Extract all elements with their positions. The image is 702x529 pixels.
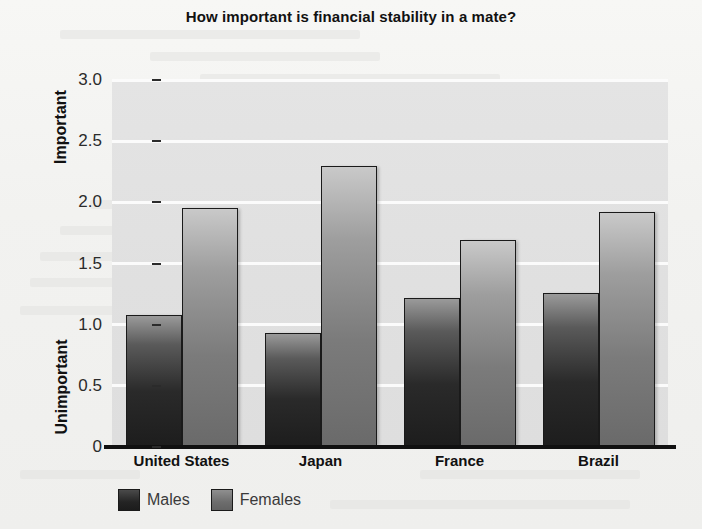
y-tick-mark <box>152 446 161 448</box>
legend-item-females[interactable]: Females <box>211 489 301 511</box>
y-tick-mark <box>152 201 161 203</box>
y-tick-mark <box>152 140 161 142</box>
bar-japan-males[interactable] <box>265 333 321 447</box>
legend-swatch-females <box>211 489 233 511</box>
y-tick-label: 1.5 <box>56 254 102 274</box>
legend-label: Males <box>147 491 190 509</box>
y-tick-label: 3.0 <box>56 70 102 90</box>
legend-swatch-males <box>118 489 140 511</box>
y-axis: 00.51.01.52.02.53.0 <box>50 0 102 529</box>
y-tick-mark <box>152 263 161 265</box>
y-axis-label-important: Important <box>52 90 70 164</box>
y-tick-mark <box>152 385 161 387</box>
y-tick-label: 1.0 <box>56 315 102 335</box>
bar-france-males[interactable] <box>404 298 460 447</box>
y-tick-label: 0 <box>56 437 102 457</box>
x-axis-label-japan: Japan <box>299 452 342 469</box>
bar-france-females[interactable] <box>460 240 516 447</box>
x-axis-label-united-states: United States <box>134 452 230 469</box>
bar-brazil-males[interactable] <box>543 293 599 447</box>
x-axis-label-brazil: Brazil <box>578 452 619 469</box>
x-axis-label-france: France <box>435 452 484 469</box>
y-tick-label: 2.0 <box>56 192 102 212</box>
bar-group <box>126 80 238 447</box>
y-axis-label-unimportant: Unimportant <box>53 339 71 434</box>
bar-group <box>404 80 516 447</box>
x-axis-line <box>104 445 676 449</box>
bar-united-states-males[interactable] <box>126 315 182 447</box>
chart-legend: MalesFemales <box>118 489 313 511</box>
bar-group <box>265 80 377 447</box>
chart-title: How important is financial stability in … <box>0 8 702 25</box>
bar-brazil-females[interactable] <box>599 212 655 447</box>
bar-group <box>543 80 655 447</box>
y-tick-mark <box>152 79 161 81</box>
legend-item-males[interactable]: Males <box>118 489 190 511</box>
legend-label: Females <box>240 491 301 509</box>
bars-layer <box>112 80 668 447</box>
bar-japan-females[interactable] <box>321 166 377 447</box>
y-tick-mark <box>152 324 161 326</box>
bar-united-states-females[interactable] <box>182 208 238 447</box>
